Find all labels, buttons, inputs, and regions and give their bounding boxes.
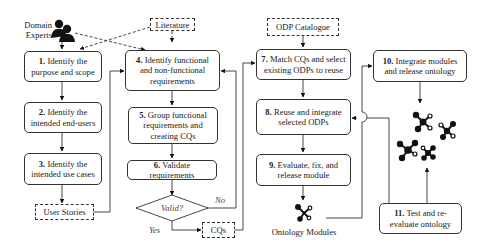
decision-no-label: No [215, 195, 225, 205]
step-4-box: 4. Identify functional and non-functiona… [125, 50, 220, 91]
cqs-label: CQs [211, 225, 226, 235]
decision-yes-label: Yes [149, 225, 160, 235]
user-stories-source: User Stories [35, 204, 94, 220]
step-7-number: 7. [261, 54, 267, 64]
odp-catalogue-label: ODP Catalogue [276, 22, 330, 32]
domain-experts-line2: Experts [22, 30, 52, 40]
methodology-flowchart: Domain Experts Literature ODP Catalogue … [0, 0, 485, 250]
step-10-text: Integrate modules and release ontology [384, 56, 457, 77]
ontology-module-icon [296, 205, 312, 221]
step-8-number: 8. [265, 107, 271, 117]
step-8-box: 8. Reuse and integrate selected ODPs [256, 99, 351, 135]
odp-catalogue-source: ODP Catalogue [267, 18, 339, 36]
step-10-box: 10. Integrate modules and release ontolo… [373, 50, 467, 82]
step-8-text: Reuse and integrate selected ODPs [274, 107, 342, 128]
step-6-box: 6. Validate requirements [127, 160, 217, 180]
literature-label: Literature [156, 20, 190, 30]
cqs-source: CQs [202, 222, 235, 238]
step-11-box: 11. Test and re-evaluate ontology [379, 203, 462, 234]
literature-source: Literature [150, 18, 195, 31]
step-9-text: Evaluate, fix, and release module [277, 160, 338, 181]
step-5-text: Group functional requirements and creati… [143, 110, 207, 141]
step-3-number: 3. [39, 159, 45, 169]
user-stories-label: User Stories [43, 207, 85, 217]
step-11-number: 11. [394, 208, 404, 218]
step-2-box: 2. Identify the intended end-users [24, 102, 102, 133]
step-9-number: 9. [269, 160, 275, 170]
step-1-number: 1. [39, 56, 45, 66]
step-2-number: 2. [39, 107, 45, 117]
step-5-number: 5. [139, 110, 145, 120]
step-6-number: 6. [154, 160, 160, 170]
step-4-number: 4. [136, 55, 142, 65]
domain-experts-line1: Domain [22, 20, 52, 30]
step-5-box: 5. Group functional requirements and cre… [128, 107, 218, 144]
step-9-box: 9. Evaluate, fix, and release module [256, 154, 351, 186]
step-7-box: 7. Match CQs and select existing ODPs to… [256, 49, 351, 80]
decision-label: Valid? [158, 203, 186, 213]
step-10-number: 10. [383, 56, 394, 66]
domain-experts-icon [51, 20, 75, 42]
step-1-box: 1. Identify the purpose and scope [24, 51, 102, 82]
step-4-text: Identify functional and non-functional r… [140, 55, 209, 86]
domain-experts-label: Domain Experts [22, 20, 52, 40]
step-3-box: 3. Identify the intended use cases [24, 153, 102, 185]
ontology-modules-label: Ontology Modules [263, 227, 345, 237]
step-7-text: Match CQs and select existing ODPs to re… [264, 54, 346, 75]
integrated-ontology-icon [398, 113, 455, 160]
